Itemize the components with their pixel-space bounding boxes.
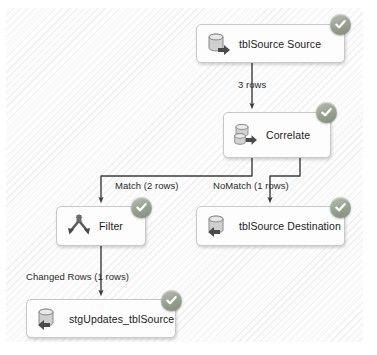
status-badge-success-destination bbox=[330, 197, 351, 218]
status-badge-success-correlate bbox=[316, 102, 337, 123]
node-label: Filter bbox=[99, 220, 123, 232]
node-tblsource-destination[interactable]: tblSource Destination bbox=[196, 206, 345, 246]
database-destination-icon bbox=[36, 306, 62, 332]
database-source-icon bbox=[206, 31, 232, 57]
database-merge-icon bbox=[233, 122, 259, 148]
split-arrows-icon bbox=[66, 213, 92, 239]
status-badge-success-filter bbox=[131, 197, 152, 218]
node-label: tblSource Destination bbox=[239, 220, 341, 232]
node-label: tblSource Source bbox=[239, 38, 321, 50]
node-tblsource-source[interactable]: tblSource Source bbox=[196, 24, 345, 63]
status-badge-success-staging bbox=[161, 290, 182, 311]
edge-label-nomatch: NoMatch (1 rows) bbox=[213, 180, 289, 191]
status-badge-success-source bbox=[330, 14, 351, 35]
node-label: stgUpdates_tblSource bbox=[69, 313, 174, 325]
edge-label-match: Match (2 rows) bbox=[115, 180, 179, 191]
database-destination-icon bbox=[206, 213, 232, 239]
edge-label-3-rows: 3 rows bbox=[238, 79, 266, 90]
node-label: Correlate bbox=[266, 129, 310, 141]
node-correlate[interactable]: Correlate bbox=[223, 112, 331, 158]
edge-label-changed-rows: Changed Rows (1 rows) bbox=[26, 271, 129, 282]
node-stgupdates-tblsource[interactable]: stgUpdates_tblSource bbox=[26, 299, 176, 338]
